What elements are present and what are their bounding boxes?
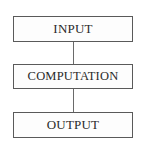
computation-node: COMPUTATION: [13, 64, 133, 89]
input-node: INPUT: [13, 16, 133, 42]
output-node-label: OUTPUT: [47, 117, 99, 133]
connector-input-computation: [73, 42, 74, 64]
output-node: OUTPUT: [13, 112, 133, 138]
input-node-label: INPUT: [53, 21, 92, 37]
computation-node-label: COMPUTATION: [28, 69, 119, 84]
connector-computation-output: [73, 89, 74, 112]
